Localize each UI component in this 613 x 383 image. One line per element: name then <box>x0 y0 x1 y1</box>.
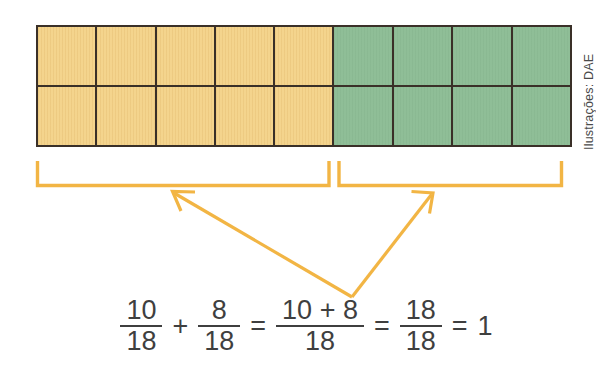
bar-model-row-top <box>38 27 570 85</box>
fraction-eighteen-eighteenths: 18 18 <box>400 296 442 356</box>
left-arrowhead <box>173 192 196 212</box>
operator-plus: + <box>171 313 189 340</box>
bar-cell-yellow <box>214 87 273 145</box>
bar-model-top-yellow-group <box>38 27 332 85</box>
bar-model <box>36 25 572 147</box>
bar-cell-green <box>334 27 391 85</box>
fraction-denominator: 18 <box>120 327 162 356</box>
fraction-bar-model-figure: Ilustrações: DAE 10 18 + 8 <box>0 0 613 383</box>
right-arrowhead <box>412 192 434 214</box>
bar-cell-yellow <box>155 87 214 145</box>
bar-model-row-bottom <box>38 85 570 145</box>
bar-cell-yellow <box>155 27 214 85</box>
bar-cell-yellow <box>273 27 332 85</box>
left-bracket <box>38 161 330 186</box>
fraction-denominator: 18 <box>299 327 341 356</box>
right-arrow-shaft <box>352 195 432 298</box>
fraction-numerator: 10 <box>120 296 162 325</box>
fraction-numerator: 8 <box>206 296 233 325</box>
fraction-denominator: 18 <box>400 327 442 356</box>
bar-cell-yellow <box>38 87 95 145</box>
operator-equals-third: = <box>451 313 469 340</box>
bar-cell-yellow <box>95 27 154 85</box>
bar-cell-yellow <box>273 87 332 145</box>
fraction-numerator: 10 + 8 <box>276 296 364 325</box>
fraction-denominator: 18 <box>198 327 240 356</box>
bar-cell-green <box>451 87 510 145</box>
right-bracket <box>339 161 562 186</box>
equation: 10 18 + 8 18 = 10 + 8 18 = 18 18 = 1 <box>0 296 613 356</box>
fraction-numerator: 18 <box>400 296 442 325</box>
bar-cell-green <box>334 87 391 145</box>
bar-cell-green <box>511 87 570 145</box>
bar-cell-yellow <box>38 27 95 85</box>
bar-cell-green <box>511 27 570 85</box>
illustration-credit: Ilustrações: DAE <box>578 22 596 150</box>
bar-model-top-green-group <box>332 27 570 85</box>
bar-model-bottom-yellow-group <box>38 87 332 145</box>
operator-equals-second: = <box>373 313 391 340</box>
fraction-eight-eighteenths: 8 18 <box>198 296 240 356</box>
bar-cell-yellow <box>214 27 273 85</box>
fraction-sum-over-eighteen: 10 + 8 18 <box>276 296 364 356</box>
bar-cell-green <box>392 27 451 85</box>
bar-model-bottom-green-group <box>332 87 570 145</box>
operator-equals-first: = <box>249 313 267 340</box>
bar-cell-green <box>451 27 510 85</box>
bar-cell-yellow <box>95 87 154 145</box>
fraction-ten-eighteenths: 10 18 <box>120 296 162 356</box>
left-arrow-shaft <box>174 193 352 297</box>
result-value: 1 <box>478 313 493 340</box>
bar-cell-green <box>392 87 451 145</box>
